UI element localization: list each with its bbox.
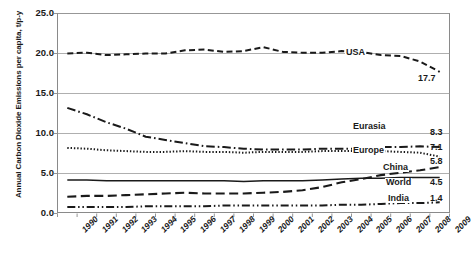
x-tick-label: 1991 xyxy=(99,214,119,234)
y-tick-label: 5.0 xyxy=(18,168,54,178)
x-tick-label: 1999 xyxy=(256,214,276,234)
series-end-value-eurasia: 8.3 xyxy=(430,128,443,137)
series-label-eurasia: Eurasia xyxy=(352,122,387,131)
series-end-value-europe: 7.1 xyxy=(430,143,443,152)
y-tick-label: 10.0 xyxy=(18,128,54,138)
series-end-value-usa: 17.7 xyxy=(418,74,436,83)
y-tick-label: 25.0 xyxy=(18,8,54,18)
x-tick-label: 1998 xyxy=(237,214,257,234)
x-tick-label: 2007 xyxy=(413,214,433,234)
x-tick-label: 1994 xyxy=(158,214,178,234)
x-tick-label: 2009 xyxy=(452,214,472,234)
series-label-india: India xyxy=(387,194,410,203)
x-tick-label: 2001 xyxy=(295,214,315,234)
y-tick-label: 0.0 xyxy=(18,208,54,218)
x-tick-label: 1996 xyxy=(197,214,217,234)
series-end-value-world: 4.5 xyxy=(430,178,443,187)
y-tick-label: 15.0 xyxy=(18,88,54,98)
x-tick-label: 2003 xyxy=(335,214,355,234)
x-tick-label: 1990 xyxy=(80,214,100,234)
x-tick-label: 2000 xyxy=(276,214,296,234)
x-axis-tick-labels: 1990199119921993199419951996199719981999… xyxy=(57,214,450,258)
x-tick-label: 1993 xyxy=(139,214,159,234)
x-tick-label: 2006 xyxy=(393,214,413,234)
y-axis-tick-labels: 0.05.010.015.020.025.0 xyxy=(12,0,54,258)
x-tick-label: 1992 xyxy=(119,214,139,234)
x-tick-label: 1995 xyxy=(178,214,198,234)
series-label-usa: USA xyxy=(345,48,366,57)
series-label-china: China xyxy=(382,163,409,172)
x-tick-label: 2008 xyxy=(433,214,453,234)
x-tick-label: 2005 xyxy=(374,214,394,234)
x-tick-label: 2004 xyxy=(354,214,374,234)
series-end-value-china: 5.8 xyxy=(430,157,443,166)
x-tick-label: 2002 xyxy=(315,214,335,234)
x-tick-label: 1997 xyxy=(217,214,237,234)
series-label-europe: Europe xyxy=(352,146,385,155)
y-tick-label: 20.0 xyxy=(18,48,54,58)
chart-container: Annual Carbon Dioxide Emissions per capi… xyxy=(0,0,473,258)
series-end-value-india: 1.4 xyxy=(430,194,443,203)
series-label-world: World xyxy=(385,178,412,187)
